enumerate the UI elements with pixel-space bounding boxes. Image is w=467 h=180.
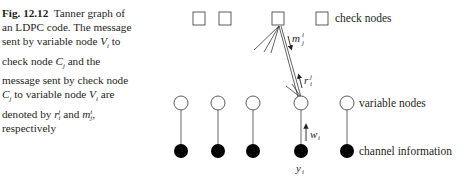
check-node-j bbox=[272, 12, 284, 25]
message-m-label: m bbox=[292, 32, 300, 44]
check-nodes bbox=[193, 12, 328, 25]
check-node bbox=[316, 12, 328, 25]
tanner-graph: m i j r j i w i y i check nodes variable… bbox=[0, 0, 467, 180]
svg-text:i: i bbox=[302, 31, 304, 39]
variable-nodes bbox=[174, 96, 354, 110]
channel-y-label: y bbox=[295, 162, 301, 174]
check-node bbox=[219, 12, 231, 25]
check-nodes-label: check nodes bbox=[335, 12, 392, 24]
check-node bbox=[193, 12, 205, 25]
message-r-label: r bbox=[304, 74, 309, 86]
channel-node bbox=[211, 144, 225, 158]
channel-links bbox=[181, 110, 347, 147]
channel-node bbox=[340, 144, 354, 158]
variable-node-i bbox=[294, 96, 308, 110]
channel-nodes bbox=[174, 144, 354, 158]
svg-text:i: i bbox=[318, 134, 320, 142]
message-w-label: w bbox=[310, 128, 318, 140]
channel-information-label: channel information bbox=[359, 145, 452, 157]
variable-node bbox=[246, 96, 260, 110]
message-r-arrow bbox=[299, 76, 302, 88]
variable-node bbox=[211, 96, 225, 110]
variable-node bbox=[174, 96, 188, 110]
channel-node bbox=[246, 144, 260, 158]
svg-text:i: i bbox=[310, 80, 312, 88]
channel-node bbox=[174, 144, 188, 158]
channel-node-i bbox=[294, 144, 308, 158]
svg-text:j: j bbox=[301, 39, 304, 47]
svg-text:i: i bbox=[302, 168, 304, 176]
variable-nodes-label: variable nodes bbox=[359, 97, 426, 109]
variable-node bbox=[340, 96, 354, 110]
message-m-arrow bbox=[288, 36, 291, 48]
